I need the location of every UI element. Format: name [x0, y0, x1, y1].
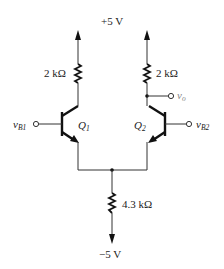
emitter-resistor [109, 193, 115, 213]
emitter-arrow-icon [148, 135, 157, 143]
output-label: vo [177, 89, 186, 103]
input-terminal-vb2 [186, 121, 191, 126]
input-terminal-vb1 [33, 121, 38, 126]
collector-resistor-2-label: 2 kΩ [156, 67, 178, 79]
transistor-q2-label: Q2 [134, 119, 146, 133]
positive-supply-label: +5 V [101, 15, 123, 27]
input-label-vb2: vB2 [196, 118, 209, 132]
input-label-vb1: vB1 [13, 118, 26, 132]
transistor-q2 [147, 106, 165, 170]
collector-resistor-1 [75, 64, 81, 83]
output-terminal [168, 93, 173, 98]
emitter-resistor-label: 4.3 kΩ [122, 198, 152, 210]
differential-pair-circuit: +5 V 2 kΩ 2 kΩ vo vB1 Q1 vB2 [0, 0, 224, 269]
emitter-arrow-icon [70, 135, 79, 143]
negative-supply-arrow-icon [109, 213, 115, 244]
collector-resistor-1-label: 2 kΩ [44, 67, 66, 79]
collector-resistor-2 [144, 64, 150, 83]
transistor-q1 [62, 106, 79, 170]
negative-supply-label: −5 V [99, 248, 121, 260]
left-supply-arrow-icon [75, 30, 81, 64]
transistor-q1-label: Q1 [78, 119, 90, 133]
right-supply-arrow-icon [144, 30, 150, 64]
